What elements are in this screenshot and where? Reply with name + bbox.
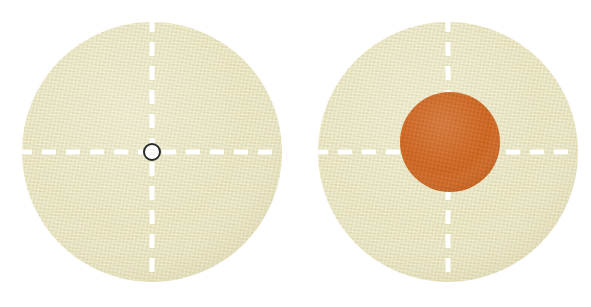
panel-left-disc <box>18 18 286 286</box>
figure-canvas <box>0 0 591 307</box>
left-center-hub <box>144 144 160 160</box>
panel-right-disc <box>314 18 582 286</box>
right-overlay-disc-shading <box>400 92 500 192</box>
figure-svg <box>0 0 591 307</box>
